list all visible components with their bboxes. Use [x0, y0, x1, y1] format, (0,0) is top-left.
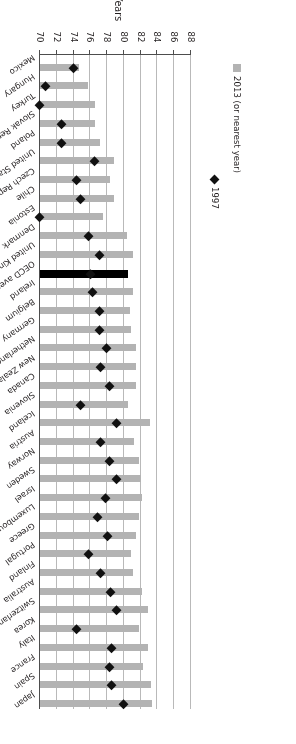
- chart-row: [40, 185, 191, 204]
- tick-label: 74: [69, 26, 79, 48]
- chart-row: [40, 578, 191, 597]
- chart-row: [40, 541, 191, 560]
- bar-2013: [40, 700, 152, 707]
- bar-2013: [40, 363, 136, 370]
- chart-row: [40, 522, 191, 541]
- tick-label: 88: [186, 26, 196, 48]
- bar-2013: [40, 513, 139, 520]
- chart-row: [40, 559, 191, 578]
- chart-row: [40, 222, 191, 241]
- chart-row: [40, 91, 191, 110]
- tick-mark: [190, 50, 191, 54]
- bar-2013: [40, 532, 136, 539]
- plot-area: [40, 54, 191, 709]
- chart-row: [40, 297, 191, 316]
- chart-row: [40, 391, 191, 410]
- bar-2013: [40, 307, 130, 314]
- chart-row: [40, 148, 191, 167]
- bar-2013: [40, 606, 148, 613]
- category-label: Italy: [17, 633, 37, 651]
- tick-mark: [123, 50, 124, 54]
- bar-2013: [40, 438, 134, 445]
- tick-label: 82: [136, 26, 146, 48]
- bar-2013: [40, 494, 142, 501]
- chart-row: [40, 335, 191, 354]
- bar-2013: [40, 251, 133, 258]
- tick-mark: [89, 50, 90, 54]
- bar-2013: [40, 419, 150, 426]
- tick-label: 80: [119, 26, 129, 48]
- bar-2013: [40, 457, 139, 464]
- chart-row: [40, 653, 191, 672]
- bar-2013: [40, 681, 151, 688]
- chart-row: [40, 634, 191, 653]
- legend-swatch-square-icon: [233, 64, 241, 72]
- bar-2013: [40, 213, 103, 220]
- chart-row: [40, 597, 191, 616]
- chart-row: [40, 241, 191, 260]
- chart-row: [40, 166, 191, 185]
- tick-label: 76: [85, 26, 95, 48]
- chart-row: [40, 260, 191, 279]
- tick-mark: [173, 50, 174, 54]
- chart-row: [40, 372, 191, 391]
- chart-row: [40, 279, 191, 298]
- chart-row: [40, 73, 191, 92]
- legend-label-2013: 2013 (or nearest year): [232, 76, 242, 173]
- bar-2013: [40, 569, 133, 576]
- tick-label: 70: [35, 26, 45, 48]
- chart-canvas: Years 2013 (or nearest year) 1997 888684…: [0, 0, 296, 744]
- bar-oecd-average: [40, 270, 128, 278]
- bar-2013: [40, 663, 143, 670]
- tick-label: 86: [169, 26, 179, 48]
- bar-2013: [40, 157, 114, 164]
- axis-title-years: Years: [113, 0, 124, 21]
- chart-row: [40, 316, 191, 335]
- chart-row: [40, 672, 191, 691]
- bar-2013: [40, 326, 131, 333]
- tick-mark: [39, 50, 40, 54]
- bar-2013: [40, 101, 95, 108]
- bar-2013: [40, 120, 95, 127]
- legend-item-1997: 1997: [210, 176, 220, 209]
- chart-row: [40, 484, 191, 503]
- chart-figure: Years 2013 (or nearest year) 1997 888684…: [0, 0, 296, 744]
- bar-2013: [40, 139, 100, 146]
- category-label: Japan: [13, 690, 37, 711]
- bar-2013: [40, 382, 136, 389]
- legend-label-1997: 1997: [210, 187, 220, 209]
- chart-row: [40, 410, 191, 429]
- tick-mark: [156, 50, 157, 54]
- chart-row: [40, 615, 191, 634]
- chart-row: [40, 447, 191, 466]
- chart-row: [40, 204, 191, 223]
- chart-row: [40, 503, 191, 522]
- bar-2013: [40, 588, 142, 595]
- bar-2013: [40, 344, 136, 351]
- legend-item-2013: 2013 (or nearest year): [232, 64, 242, 173]
- bar-2013: [40, 644, 148, 651]
- chart-row: [40, 353, 191, 372]
- tick-label: 72: [52, 26, 62, 48]
- chart-row: [40, 690, 191, 709]
- legend-diamond-icon: [210, 175, 220, 185]
- chart-row: [40, 466, 191, 485]
- tick-mark: [56, 50, 57, 54]
- chart-row: [40, 110, 191, 129]
- bar-2013: [40, 475, 141, 482]
- chart-row: [40, 428, 191, 447]
- tick-label: 78: [102, 26, 112, 48]
- tick-mark: [73, 50, 74, 54]
- chart-row: [40, 54, 191, 73]
- tick-mark: [106, 50, 107, 54]
- chart-row: [40, 129, 191, 148]
- bar-2013: [40, 625, 139, 632]
- tick-label: 84: [152, 26, 162, 48]
- tick-mark: [140, 50, 141, 54]
